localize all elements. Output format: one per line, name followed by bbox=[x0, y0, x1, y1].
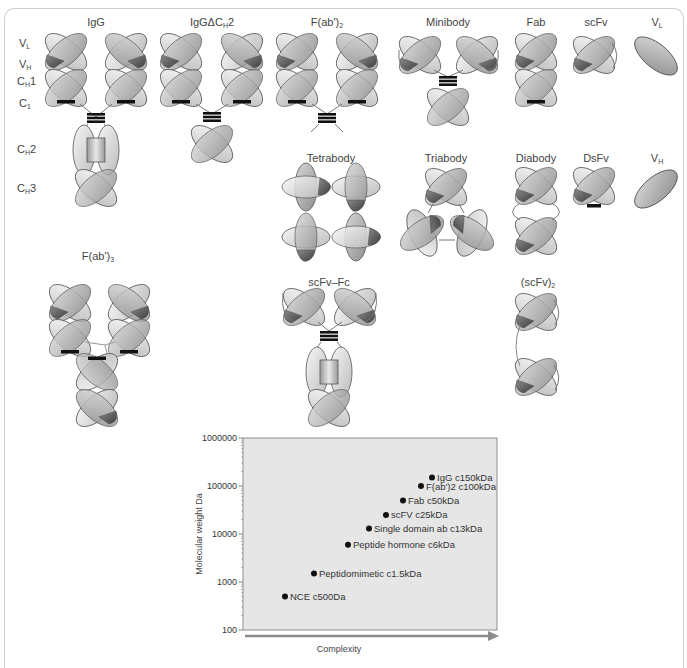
y-tick-label: 1000000 bbox=[202, 433, 237, 443]
y-tick-label: 10000 bbox=[212, 529, 237, 539]
y-tick-label: 100 bbox=[222, 625, 237, 635]
data-point bbox=[366, 526, 372, 532]
data-point bbox=[418, 483, 424, 489]
y-tick-label: 100000 bbox=[207, 481, 237, 491]
data-point-label: Fab c50kDa bbox=[408, 495, 460, 506]
data-point bbox=[311, 571, 317, 577]
data-point-label: scFV c25kDa bbox=[391, 509, 448, 520]
data-point bbox=[400, 497, 406, 503]
data-point bbox=[282, 593, 288, 599]
y-tick-label: 1000 bbox=[217, 577, 237, 587]
data-point-label: Peptidomimetic c1.5kDa bbox=[319, 568, 422, 579]
data-point bbox=[383, 512, 389, 518]
data-point-label: IgG c150kDa bbox=[437, 472, 493, 483]
data-point bbox=[345, 542, 351, 548]
y-axis-title: Molecular weight Da bbox=[194, 493, 204, 575]
data-points: NCE c500DaPeptidomimetic c1.5kDaPeptide … bbox=[282, 472, 497, 602]
y-tick-labels: 1000000100000100001000100 bbox=[202, 433, 237, 635]
data-point-label: Single domain ab c13kDa bbox=[374, 523, 483, 534]
data-point-label: NCE c500Da bbox=[290, 591, 346, 602]
data-point bbox=[429, 475, 435, 481]
data-point-label: Peptide hormone c6kDa bbox=[353, 539, 456, 550]
x-axis-title: Complexity bbox=[317, 644, 362, 654]
